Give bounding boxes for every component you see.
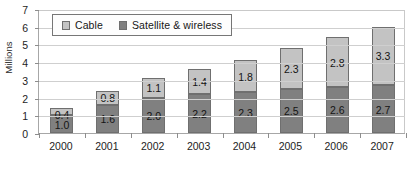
y-axis-tickmark bbox=[35, 63, 39, 64]
bar-segment[interactable]: 1.8 bbox=[234, 60, 257, 92]
y-tick-label: 7 bbox=[22, 5, 28, 16]
bar-value-label: 2.3 bbox=[281, 64, 302, 75]
y-tick-label: 5 bbox=[22, 40, 28, 51]
bar-value-label: 3.3 bbox=[373, 51, 394, 62]
bar-segment[interactable]: 2.7 bbox=[372, 85, 395, 133]
x-tick-label: 2006 bbox=[325, 140, 348, 152]
x-axis-tickmark bbox=[131, 133, 132, 138]
bar-value-label: 2.2 bbox=[189, 109, 210, 120]
x-tick-label: 2002 bbox=[141, 140, 164, 152]
bar-group[interactable]: 1.60.8 bbox=[96, 91, 119, 134]
x-axis-tickmark bbox=[360, 133, 361, 138]
bar-value-label: 1.1 bbox=[143, 83, 164, 94]
legend-swatch-icon bbox=[62, 21, 70, 30]
bar-group[interactable]: 2.01.1 bbox=[142, 78, 165, 133]
bar-segment[interactable]: 3.3 bbox=[372, 27, 395, 85]
bar-segment[interactable]: 2.5 bbox=[280, 89, 303, 133]
legend-swatch-icon bbox=[119, 21, 127, 30]
x-axis-tick-labels: 20002001200220032004200520062007 bbox=[38, 140, 405, 160]
x-tick-label: 2007 bbox=[370, 140, 393, 152]
y-axis-tickmark bbox=[35, 116, 39, 117]
chart-legend: CableSatellite & wireless bbox=[52, 14, 232, 36]
bar-segment[interactable]: 2.0 bbox=[142, 98, 165, 133]
x-axis-tickmark bbox=[314, 133, 315, 138]
legend-entry[interactable]: Satellite & wireless bbox=[119, 19, 222, 31]
gridline bbox=[39, 81, 405, 82]
bar-value-label: 2.5 bbox=[281, 106, 302, 117]
stacked-bar-chart: Millions 01234567 1.00.41.60.82.01.12.21… bbox=[0, 0, 412, 172]
x-tick-label: 2004 bbox=[233, 140, 256, 152]
bar-value-label: 2.6 bbox=[327, 105, 348, 116]
x-tick-label: 2001 bbox=[95, 140, 118, 152]
bar-segment[interactable]: 2.2 bbox=[188, 94, 211, 133]
y-axis-tickmark bbox=[35, 10, 39, 11]
x-axis-tickmark bbox=[85, 133, 86, 138]
x-tick-label: 2005 bbox=[279, 140, 302, 152]
gridline bbox=[39, 63, 405, 64]
bar-value-label: 2.7 bbox=[373, 105, 394, 116]
gridline bbox=[39, 116, 405, 117]
bar-value-label: 1.4 bbox=[189, 77, 210, 88]
legend-label: Cable bbox=[75, 19, 103, 31]
bar-segment[interactable]: 0.4 bbox=[50, 108, 73, 115]
y-axis-tick-labels: 01234567 bbox=[0, 10, 32, 134]
bar-segment[interactable]: 2.6 bbox=[326, 87, 349, 133]
bar-group[interactable]: 2.62.8 bbox=[326, 37, 349, 133]
x-axis-tickmark bbox=[268, 133, 269, 138]
gridline bbox=[39, 99, 405, 100]
y-axis-tickmark bbox=[35, 28, 39, 29]
bar-segment[interactable]: 2.3 bbox=[280, 48, 303, 89]
x-axis-tickmark bbox=[39, 133, 40, 138]
y-axis-tickmark bbox=[35, 99, 39, 100]
legend-entry[interactable]: Cable bbox=[62, 19, 103, 31]
y-axis-tickmark bbox=[35, 81, 39, 82]
x-axis-tickmark bbox=[177, 133, 178, 138]
y-tick-label: 3 bbox=[22, 76, 28, 87]
y-tick-label: 6 bbox=[22, 22, 28, 33]
x-tick-label: 2000 bbox=[49, 140, 72, 152]
y-tick-label: 1 bbox=[22, 111, 28, 122]
y-tick-label: 2 bbox=[22, 93, 28, 104]
gridline bbox=[39, 45, 405, 46]
x-tick-label: 2003 bbox=[187, 140, 210, 152]
bar-group[interactable]: 1.00.4 bbox=[50, 108, 73, 133]
bar-group[interactable]: 2.21.4 bbox=[188, 69, 211, 133]
bar-segment[interactable]: 1.6 bbox=[96, 105, 119, 133]
bar-group[interactable]: 2.31.8 bbox=[234, 60, 257, 133]
bar-value-label: 1.0 bbox=[51, 120, 72, 131]
y-axis-tickmark bbox=[35, 45, 39, 46]
x-axis-tickmark bbox=[223, 133, 224, 138]
x-axis-tickmark bbox=[406, 133, 407, 138]
legend-label: Satellite & wireless bbox=[132, 19, 222, 31]
bar-group[interactable]: 2.52.3 bbox=[280, 48, 303, 133]
y-tick-label: 4 bbox=[22, 58, 28, 69]
y-tick-label: 0 bbox=[22, 129, 28, 140]
